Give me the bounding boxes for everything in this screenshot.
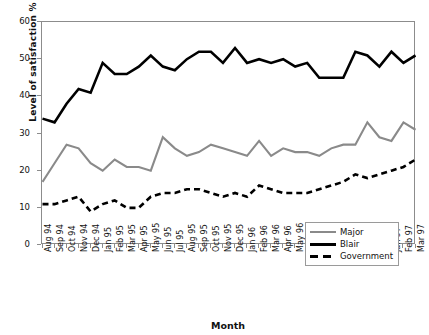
x-tick-label: Oct 94 [69, 225, 77, 252]
x-tick-label: Aug 95 [189, 224, 197, 252]
x-tick-label: Jan 96 [249, 227, 257, 252]
x-tick-mark [42, 244, 43, 248]
x-tick-mark [114, 244, 115, 248]
x-tick-mark [210, 244, 211, 248]
x-tick-label: Apr 95 [141, 225, 149, 252]
x-tick-mark [246, 244, 247, 248]
x-tick-label: Apr 96 [285, 225, 293, 252]
y-tick-label: 0 [0, 240, 30, 249]
series-canvas [42, 22, 416, 245]
legend-swatch-government-icon [310, 251, 336, 261]
x-tick-label: Dec 94 [93, 224, 101, 252]
x-tick-mark [270, 244, 271, 248]
x-tick-label: Jul 95 [177, 230, 185, 252]
x-tick-label: Feb 97 [406, 225, 414, 252]
x-tick-label: Jan 95 [105, 227, 113, 252]
x-tick-mark [126, 244, 127, 248]
legend-item-government: Government [310, 250, 393, 262]
x-tick-mark [186, 244, 187, 248]
satisfaction-line-chart: Level of satisfaction % 0102030405060 Au… [0, 0, 429, 335]
y-tick-label: 30 [0, 129, 30, 138]
x-tick-label: Aug 94 [45, 224, 53, 252]
x-tick-mark [174, 244, 175, 248]
x-tick-label: Sep 95 [201, 224, 209, 252]
legend-label-major: Major [340, 228, 364, 237]
x-tick-label: Mar 96 [273, 224, 281, 252]
x-tick-mark [66, 244, 67, 248]
x-tick-mark [402, 244, 403, 248]
legend-swatch-blair-icon [310, 239, 336, 249]
x-tick-mark [234, 244, 235, 248]
x-tick-label: Dec 95 [237, 224, 245, 252]
x-tick-label: Oct 95 [213, 225, 221, 252]
legend-label-blair: Blair [340, 240, 359, 249]
x-tick-mark [162, 244, 163, 248]
x-axis-title: Month [41, 320, 415, 331]
legend-item-major: Major [310, 226, 393, 238]
x-tick-mark [222, 244, 223, 248]
x-tick-label: Jun 95 [165, 227, 173, 252]
legend-label-government: Government [340, 252, 393, 261]
legend-item-blair: Blair [310, 238, 393, 250]
y-tick-mark [37, 244, 41, 245]
plot-area [41, 21, 415, 244]
y-tick-label: 10 [0, 203, 30, 212]
y-tick-label: 40 [0, 91, 30, 100]
x-tick-label: Nov 95 [225, 224, 233, 252]
x-tick-label: Mar 95 [129, 224, 137, 252]
x-tick-mark [282, 244, 283, 248]
x-tick-mark [78, 244, 79, 248]
y-tick-label: 20 [0, 166, 30, 175]
x-tick-label: Mar 97 [418, 224, 426, 252]
x-tick-label: Feb 95 [117, 225, 125, 252]
x-tick-label: Sep 94 [57, 224, 65, 252]
x-tick-mark [138, 244, 139, 248]
x-tick-mark [54, 244, 55, 248]
series-line-major [43, 122, 416, 181]
x-tick-mark [90, 244, 91, 248]
x-tick-label: May 95 [153, 223, 161, 252]
legend-swatch-major-icon [310, 227, 336, 237]
x-tick-mark [102, 244, 103, 248]
x-tick-mark [198, 244, 199, 248]
y-tick-label: 60 [0, 17, 30, 26]
series-line-blair [43, 48, 416, 122]
x-tick-mark [415, 244, 416, 248]
y-tick-label: 50 [0, 54, 30, 63]
x-tick-mark [150, 244, 151, 248]
x-tick-mark [258, 244, 259, 248]
chart-legend: Major Blair Government [305, 222, 399, 266]
x-tick-label: Feb 96 [261, 225, 269, 252]
x-tick-label: Nov 94 [81, 224, 89, 252]
